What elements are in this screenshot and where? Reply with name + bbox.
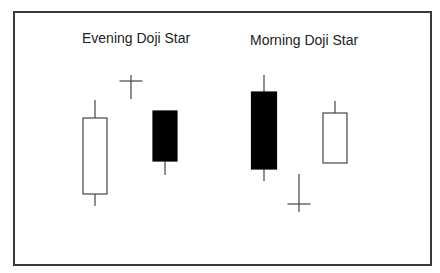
- doji-candle: [288, 174, 311, 212]
- pattern-group: [252, 75, 348, 212]
- pattern-group: [83, 75, 177, 206]
- bullish-candle: [323, 101, 347, 163]
- bearish-candle: [153, 111, 177, 175]
- candle-body: [83, 118, 107, 194]
- bearish-candle: [252, 75, 277, 181]
- candlestick-diagram: [0, 0, 440, 273]
- candle-body: [252, 92, 277, 169]
- candle-body: [323, 113, 347, 163]
- doji-candle: [120, 75, 143, 99]
- candle-body: [153, 111, 177, 161]
- bullish-candle: [83, 100, 107, 206]
